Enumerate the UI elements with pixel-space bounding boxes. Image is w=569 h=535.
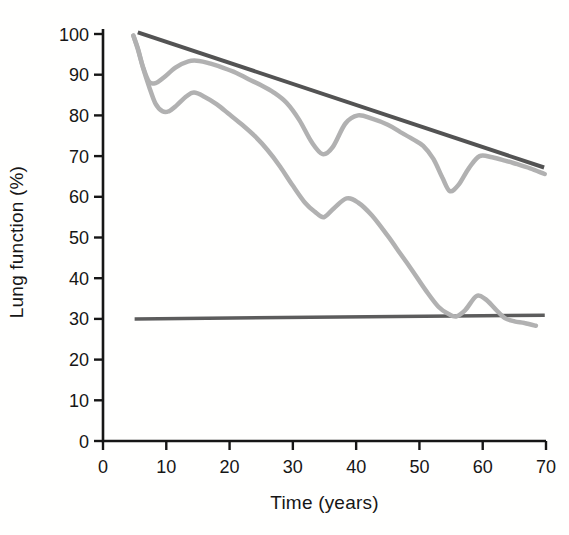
x-axis-tick-label: 60	[473, 457, 493, 477]
y-axis-tick-label: 90	[69, 65, 89, 85]
x-axis-tick-label: 40	[346, 457, 366, 477]
y-axis-tick-label: 20	[69, 350, 89, 370]
y-axis-tick-label: 30	[69, 309, 89, 329]
x-axis-tick-label: 50	[409, 457, 429, 477]
lung-function-decline-figure: 0102030405060700102030405060708090100 Lu…	[0, 0, 569, 535]
series-upper-wavy-gray-curve	[133, 36, 544, 192]
y-axis-tick-label: 0	[79, 432, 89, 452]
y-axis-tick-label: 40	[69, 269, 89, 289]
axes-frame	[103, 29, 546, 441]
x-axis-tick-label: 10	[156, 457, 176, 477]
chart-canvas: 0102030405060700102030405060708090100	[0, 0, 569, 535]
x-axis-tick-label: 20	[220, 457, 240, 477]
series-straight-declining-reference-line	[138, 32, 544, 167]
y-axis-tick-label: 70	[69, 147, 89, 167]
y-axis-tick-label: 80	[69, 106, 89, 126]
y-axis-tick-label: 10	[69, 391, 89, 411]
x-axis-tick-label: 0	[98, 457, 108, 477]
x-axis-tick-label: 70	[536, 457, 556, 477]
y-axis-tick-label: 100	[59, 25, 89, 45]
series-horizontal-threshold-line	[135, 315, 545, 319]
y-axis-tick-label: 60	[69, 187, 89, 207]
y-axis-tick-label: 50	[69, 228, 89, 248]
x-axis-tick-label: 30	[283, 457, 303, 477]
series-lower-wavy-gray-curve	[133, 36, 536, 326]
x-axis-title: Time (years)	[103, 492, 546, 514]
y-axis-title: Lung function (%)	[6, 137, 28, 347]
